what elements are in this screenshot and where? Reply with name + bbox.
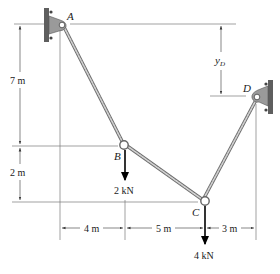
pin-A-icon (59, 22, 65, 28)
dim-7m-label: 7 m (10, 75, 26, 86)
point-D-label: D (242, 82, 251, 94)
dim-3m-label: 3 m (222, 223, 238, 234)
cable (64, 27, 256, 200)
bolt-icon (49, 36, 52, 39)
support-D: D (242, 80, 273, 114)
wall-plate-A (44, 8, 49, 42)
joint-C: C 4 kN (192, 197, 214, 261)
ring-C-icon (201, 197, 209, 205)
dim-4m-label: 4 m (84, 223, 100, 234)
diagram-canvas: 7 m 2 m yD 4 m 5 m 3 m A (0, 0, 280, 274)
bolt-icon (264, 108, 267, 111)
load-B-label: 2 kN (114, 185, 134, 196)
point-C-label: C (192, 206, 200, 218)
cable-strands (64, 27, 256, 200)
pin-D-icon (254, 94, 260, 100)
cable-outline (64, 27, 256, 200)
dimension-vertical-left: 7 m 2 m (10, 26, 26, 200)
dimension-yD: yD (214, 26, 225, 94)
dim-yD-label: yD (214, 54, 225, 68)
point-A-label: A (66, 10, 74, 22)
bolt-icon (49, 10, 52, 13)
dim-5m-label: 5 m (156, 223, 172, 234)
point-B-label: B (114, 150, 121, 162)
cable-diagram: 7 m 2 m yD 4 m 5 m 3 m A (0, 0, 280, 274)
ring-B-icon (120, 141, 128, 149)
wall-plate-D (268, 80, 273, 114)
dimension-horizontal-bottom: 4 m 5 m 3 m (62, 223, 254, 234)
bolt-icon (264, 82, 267, 85)
load-C-label: 4 kN (194, 250, 214, 261)
dim-2m-label: 2 m (10, 167, 26, 178)
